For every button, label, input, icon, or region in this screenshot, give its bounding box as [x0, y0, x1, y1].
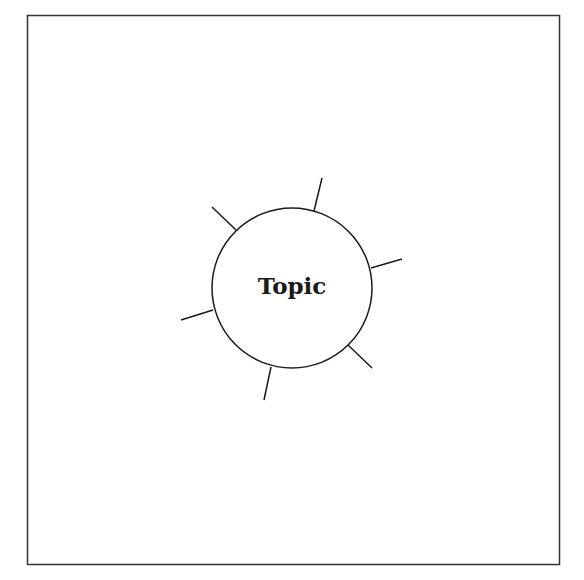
- spoke-left[interactable]: [181, 310, 213, 320]
- spoke-top[interactable]: [314, 178, 322, 211]
- mind-map-diagram: Topic: [0, 0, 584, 580]
- topic-label: Topic: [258, 272, 327, 299]
- spoke-right[interactable]: [371, 259, 402, 268]
- spoke-upper-left[interactable]: [212, 207, 236, 230]
- spoke-lower-right[interactable]: [348, 345, 372, 368]
- spoke-bottom[interactable]: [264, 367, 271, 400]
